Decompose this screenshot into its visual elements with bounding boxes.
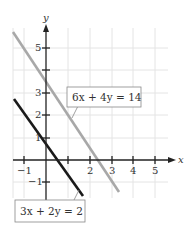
y-axis-label: y — [42, 12, 49, 23]
eq2-label: 3x + 2y = 2 — [20, 205, 83, 217]
x-tick-label: −1 — [17, 165, 32, 176]
y-axis — [43, 24, 49, 200]
x-tick-label: 3 — [109, 165, 115, 176]
eq1-label: 6x + 4y = 14 — [72, 91, 142, 103]
y-tick-label: 3 — [35, 87, 41, 98]
y-tick-label: 2 — [35, 109, 41, 120]
annotation-eq1: 6x + 4y = 14 — [67, 87, 142, 118]
x-tick-label: 2 — [87, 165, 93, 176]
x-tick-label: 5 — [152, 165, 158, 176]
annotation-eq2: 3x + 2y = 2 — [15, 190, 85, 222]
chart: x y −1 2 3 4 5 5 3 2 1 −1 6x + 4y = 14 3… — [0, 0, 194, 232]
y-tick-label: −1 — [28, 176, 43, 187]
x-tick-label: 4 — [130, 165, 136, 176]
x-axis-label: x — [178, 154, 184, 165]
x-axis — [13, 157, 176, 163]
y-tick-label: 1 — [35, 132, 41, 143]
y-tick-label: 5 — [35, 42, 41, 53]
